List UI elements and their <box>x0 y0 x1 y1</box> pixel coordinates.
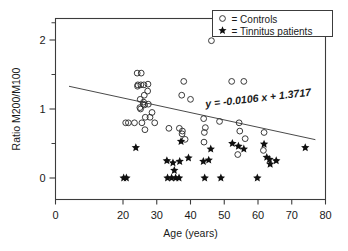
data-point-control <box>188 96 194 102</box>
legend-label-1: = Tinnitus patients <box>232 26 313 37</box>
x-tick-label-20: 20 <box>117 209 129 221</box>
y-tick-label-2: 2 <box>39 34 45 46</box>
data-point-patient <box>260 140 268 148</box>
data-point-patient <box>217 174 225 182</box>
data-point-control <box>201 139 207 145</box>
data-point-control <box>261 130 267 136</box>
data-point-control <box>235 152 241 158</box>
data-points-group <box>119 38 309 182</box>
legend-label-0: = Controls <box>232 14 278 25</box>
data-point-patient <box>200 174 208 182</box>
data-point-control <box>145 88 151 94</box>
data-point-patient <box>163 156 171 164</box>
data-point-control <box>145 81 151 87</box>
x-axis-title: Age (years) <box>163 227 217 239</box>
x-tick-label-80: 80 <box>319 209 331 221</box>
x-tick-label-0: 0 <box>52 209 58 221</box>
data-point-control <box>138 70 144 76</box>
data-point-patient <box>301 143 309 151</box>
data-point-patient <box>199 157 207 165</box>
y-axis-title: Ratio M200/M100 <box>10 67 22 150</box>
regression-equation: y = -0.0106 x + 1.3717 <box>204 86 313 110</box>
x-tick-label-60: 60 <box>252 209 264 221</box>
scatter-plot-figure: 020304050607080Age (years)012Ratio M200/… <box>0 0 348 251</box>
annotation-group: y = -0.0106 x + 1.3717 <box>204 86 313 110</box>
data-point-patient <box>170 166 178 174</box>
x-tick-label-50: 50 <box>218 209 230 221</box>
data-point-patient <box>228 139 236 147</box>
data-point-patient <box>184 154 192 162</box>
legend-group: = Controls= Tinnitus patients <box>213 11 333 37</box>
data-point-control <box>201 116 207 122</box>
data-point-control <box>142 127 148 133</box>
series-tinnitus-patients <box>119 137 309 182</box>
axes-group: 020304050607080Age (years)012Ratio M200/… <box>10 19 332 239</box>
data-point-control <box>237 128 243 134</box>
data-point-control <box>152 120 158 126</box>
data-point-control <box>166 125 172 131</box>
data-point-patient <box>207 145 215 153</box>
x-tick-label-70: 70 <box>286 209 298 221</box>
y-tick-label-1: 1 <box>39 103 45 115</box>
data-point-control <box>209 38 215 44</box>
data-point-patient <box>253 174 261 182</box>
data-point-control <box>241 79 247 85</box>
data-point-patient <box>205 156 213 164</box>
chart-canvas: 020304050607080Age (years)012Ratio M200/… <box>0 0 348 251</box>
data-point-patient <box>176 157 184 165</box>
plot-frame <box>56 19 326 200</box>
data-point-control <box>132 120 138 126</box>
data-point-control <box>181 79 187 85</box>
data-point-patient <box>177 137 185 145</box>
data-point-control <box>242 136 248 142</box>
x-tick-label-40: 40 <box>184 209 196 221</box>
data-point-control <box>229 79 235 85</box>
y-tick-label-0: 0 <box>39 172 45 184</box>
data-point-control <box>149 110 155 116</box>
data-point-patient <box>132 143 140 151</box>
data-point-patient <box>266 160 274 168</box>
data-point-control <box>139 120 145 126</box>
x-tick-label-30: 30 <box>151 209 163 221</box>
data-point-control <box>179 92 185 98</box>
data-point-control <box>261 148 267 154</box>
